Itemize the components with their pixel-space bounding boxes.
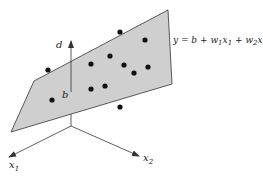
axis-x1 (9, 126, 71, 157)
label-x1: x1 (9, 159, 19, 173)
label-x2: x2 (143, 152, 154, 166)
equation: y = b + w1x1 + w2x2 (172, 35, 263, 47)
data-point (117, 104, 122, 109)
data-point (142, 37, 147, 42)
data-point (88, 61, 93, 66)
data-point (107, 53, 112, 58)
data-point (102, 83, 107, 88)
data-point (45, 67, 50, 72)
data-point (49, 97, 54, 102)
data-point (131, 70, 136, 75)
axis-x2 (71, 126, 139, 156)
label-d: d (56, 39, 62, 50)
regression-plane (11, 10, 172, 132)
data-point (88, 86, 93, 91)
data-point (117, 29, 122, 34)
data-point (145, 64, 150, 69)
regression-plane-diagram: d b x1 x2 y = b + w1x1 + w2x2 (0, 0, 263, 177)
label-b: b (62, 89, 68, 100)
data-point (121, 62, 126, 67)
